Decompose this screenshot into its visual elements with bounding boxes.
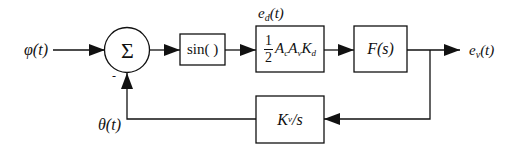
phi-symbol: φ — [24, 41, 33, 58]
kv-base: K — [277, 112, 288, 128]
input-arg: (t) — [33, 41, 48, 58]
sigma-symbol: Σ — [121, 40, 134, 62]
summer-symbol: Σ — [105, 28, 150, 73]
ed-arg: (t) — [270, 5, 284, 21]
ed-base: e — [258, 5, 265, 21]
feedback-wire-left — [127, 73, 256, 119]
kv-rest: /s — [292, 112, 303, 128]
feedback-arg: (t) — [106, 116, 121, 133]
term-ac-base: A — [275, 40, 284, 56]
term-kd-sub: d — [311, 48, 316, 58]
term-kd-base: K — [301, 40, 311, 56]
vco-label: Kv/s — [256, 96, 324, 143]
input-signal-label: φ(t) — [24, 42, 48, 58]
minus-sign: - — [112, 70, 116, 82]
pll-block-diagram: φ(t) Σ - sin( ) 1 2 AcAvKd ed(t) F(s) ev… — [0, 0, 519, 152]
feedback-signal-label: θ(t) — [98, 117, 121, 133]
gain-terms: AcAvKd — [275, 41, 316, 58]
fraction-denominator: 2 — [265, 50, 272, 65]
one-half-fraction: 1 2 — [264, 34, 273, 65]
sin-label: sin( ) — [180, 34, 225, 65]
fraction-numerator: 1 — [264, 34, 273, 50]
filter-text: F(s) — [367, 41, 394, 57]
theta-symbol: θ — [98, 116, 106, 133]
sin-text: sin( ) — [187, 42, 218, 57]
output-signal-label: ev(t) — [469, 43, 494, 60]
gain-label: 1 2 AcAvKd — [256, 26, 324, 72]
detector-output-label: ed(t) — [258, 6, 284, 23]
ev-arg: (t) — [480, 42, 494, 58]
ev-base: e — [469, 42, 476, 58]
loop-filter-label: F(s) — [354, 26, 407, 72]
